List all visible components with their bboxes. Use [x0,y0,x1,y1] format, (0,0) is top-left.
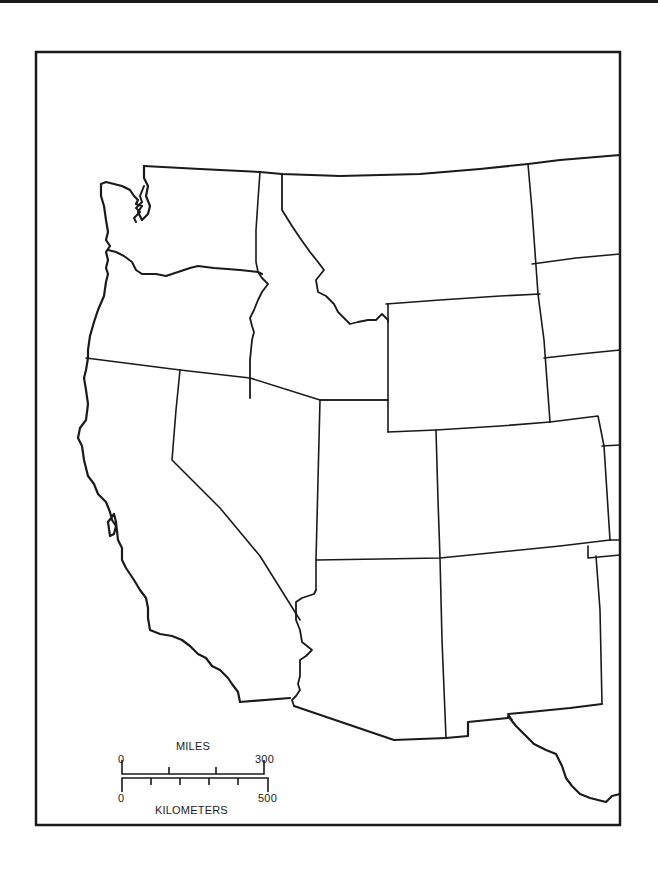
nm-tx-south-border [508,704,602,720]
ut-wy-border [320,400,388,432]
california-mexico-border [240,698,290,702]
kilometers-end-label: 500 [258,793,277,804]
nm-mexico-border [446,718,508,738]
ut-co-border [436,430,440,558]
wa-id-border [256,172,260,272]
nm-tx-border [596,556,602,704]
mt-wy-border [386,294,540,304]
map-frame [36,52,620,825]
mt-east-border [528,164,538,294]
kilometers-unit-label: KILOMETERS [155,805,228,816]
canada-border [144,155,620,176]
scale-bar-miles [122,760,264,774]
ut-az-co-nm-border [316,540,610,560]
kilometers-start-label: 0 [118,793,124,804]
map-canvas [0,0,658,873]
rio-grande-border [508,716,620,802]
az-nm-border [440,558,446,738]
ut-nv-border [316,400,320,590]
az-mexico-border [294,706,446,740]
pacific-coastline [78,166,240,702]
colorado-river-border [292,590,316,706]
ca-nv-border [172,370,300,620]
nd-sd-border [532,254,620,264]
wa-or-border [108,250,262,276]
wy-co-border [388,422,550,432]
sd-ne-border [544,350,620,358]
miles-end-label: 300 [255,754,274,765]
co-ne-ks-border [550,416,610,540]
miles-unit-label: MILES [176,741,210,752]
ne-ks-border [602,445,620,446]
42nd-parallel-border [86,358,388,400]
ok-panhandle-border [588,546,620,558]
miles-start-label: 0 [118,754,124,765]
id-mt-border [282,174,388,324]
scale-bar-kilometers [122,778,268,792]
